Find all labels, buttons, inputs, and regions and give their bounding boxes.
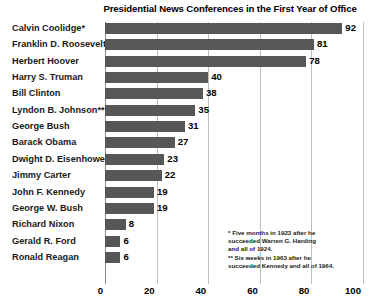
category-label: Ronald Reagan [12, 252, 79, 263]
bar-value-label: 78 [309, 55, 320, 67]
category-label: Bill Clinton [12, 88, 60, 99]
x-tick-label: 40 [196, 285, 209, 296]
bar-value-label: 6 [123, 235, 128, 247]
bar-row[interactable]: 92 [105, 23, 363, 34]
category-label: Lyndon B. Johnson** [12, 105, 105, 116]
category-label: Harry S. Truman [12, 72, 83, 83]
bar-row[interactable]: 31 [105, 121, 363, 132]
bar-value-label: 27 [178, 136, 189, 148]
bar-row[interactable]: 78 [105, 56, 363, 67]
bar-value-label: 92 [345, 22, 356, 34]
bar-row[interactable]: 23 [105, 154, 363, 165]
bar[interactable] [105, 252, 120, 263]
footnote-line: succeeded Warren G. Harding [228, 237, 372, 245]
bar[interactable] [105, 219, 126, 230]
category-label: Dwight D. Eisenhower [12, 154, 108, 165]
bar-value-label: 31 [188, 120, 199, 132]
x-tick-label: 60 [247, 285, 260, 296]
bar-row[interactable]: 19 [105, 187, 363, 198]
bar[interactable] [105, 170, 162, 181]
bar[interactable] [105, 154, 164, 165]
category-label: Herbert Hoover [12, 56, 79, 67]
footnote-block: * Five months in 1923 after hesucceeded … [228, 229, 372, 270]
bar-row[interactable]: 81 [105, 39, 363, 50]
bar-value-label: 6 [123, 251, 128, 263]
bar-value-label: 23 [167, 153, 178, 165]
bar[interactable] [105, 137, 175, 148]
bar-row[interactable]: 27 [105, 137, 363, 148]
bar-row[interactable]: 40 [105, 72, 363, 83]
bar[interactable] [105, 203, 154, 214]
category-label: George W. Bush [12, 203, 83, 214]
category-label: Jimmy Carter [12, 170, 71, 181]
category-label: Gerald R. Ford [12, 236, 76, 247]
category-label: Richard Nixon [12, 219, 74, 230]
bar[interactable] [105, 187, 154, 198]
bar-value-label: 22 [165, 169, 176, 181]
bar[interactable] [105, 72, 208, 83]
bar-value-label: 38 [206, 87, 217, 99]
bar[interactable] [105, 23, 342, 34]
bar-value-label: 19 [157, 186, 168, 198]
bar-row[interactable]: 35 [105, 105, 363, 116]
footnote-line: succeeded Kennedy and all of 1964. [228, 262, 372, 270]
bar-row[interactable]: 22 [105, 170, 363, 181]
bar-value-label: 19 [157, 202, 168, 214]
bar[interactable] [105, 56, 306, 67]
x-tick-label: 80 [299, 285, 312, 296]
category-label: Franklin D. Roosevelt [12, 39, 106, 50]
bar-value-label: 8 [129, 218, 134, 230]
category-label: George Bush [12, 121, 70, 132]
x-tick-label: 20 [144, 285, 157, 296]
bar-row[interactable]: 38 [105, 88, 363, 99]
x-axis: 020406080100 [105, 285, 363, 301]
footnote-line: * Five months in 1923 after he [228, 229, 372, 237]
category-axis-labels: Calvin Coolidge*Franklin D. RooseveltHer… [0, 22, 100, 284]
footnote-line: and all of 1924. [228, 245, 372, 253]
x-tick-label: 100 [345, 285, 363, 296]
bar-chart: Presidential News Conferences in the Fir… [0, 0, 374, 306]
x-tick-label: 0 [98, 285, 105, 296]
category-label: Barack Obama [12, 137, 76, 148]
bar[interactable] [105, 39, 314, 50]
bar[interactable] [105, 105, 195, 116]
bar-value-label: 35 [198, 104, 209, 116]
bar[interactable] [105, 236, 120, 247]
bar[interactable] [105, 88, 203, 99]
chart-title: Presidential News Conferences in the Fir… [88, 3, 372, 14]
bar[interactable] [105, 121, 185, 132]
bar-row[interactable]: 19 [105, 203, 363, 214]
footnote-line: ** Six weeks in 1963 after he [228, 254, 372, 262]
bar-value-label: 81 [317, 38, 328, 50]
category-label: John F. Kennedy [12, 187, 85, 198]
bar-value-label: 40 [211, 71, 222, 83]
category-label: Calvin Coolidge* [12, 23, 85, 34]
